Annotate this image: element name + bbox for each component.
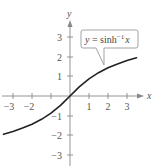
x-tick-label: 1 <box>87 101 92 112</box>
y-tick-label: 1 <box>57 71 62 82</box>
x-tick-label: −3 <box>4 101 15 112</box>
y-axis-label: y <box>66 8 72 19</box>
y-tick-label: 3 <box>57 32 62 43</box>
x-axis-label: x <box>146 90 152 101</box>
y-tick-label: −2 <box>51 130 62 141</box>
y-tick-label: −3 <box>51 150 62 161</box>
chart-canvas: −3 −2 1 2 3 x 3 2 1 −1 −2 −3 y y = sinh−… <box>0 0 155 168</box>
x-axis-arrow-icon <box>137 94 144 99</box>
x-axis: −3 −2 1 2 3 x <box>2 90 152 112</box>
y-axis: 3 2 1 −1 −2 −3 y <box>51 8 73 166</box>
y-tick-label: 2 <box>57 52 62 63</box>
x-tick-label: 3 <box>125 101 130 112</box>
y-axis-arrow-icon <box>68 20 73 27</box>
x-tick-label: 2 <box>106 101 111 112</box>
x-tick-label: −2 <box>24 101 35 112</box>
